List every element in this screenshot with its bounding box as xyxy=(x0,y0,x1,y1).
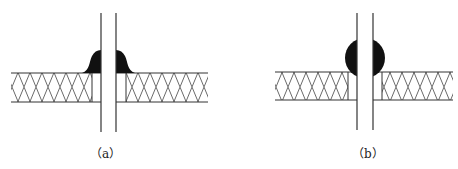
weld-fillet-a xyxy=(82,50,135,73)
plate-left-b xyxy=(275,72,357,100)
plate-left-a xyxy=(11,73,101,102)
rod-a xyxy=(101,13,116,132)
weld-diagram-svg xyxy=(0,0,458,169)
weld-bead-b xyxy=(345,38,385,78)
caption-b: （b） xyxy=(352,144,384,161)
diagram: （a） （b） xyxy=(0,0,458,169)
caption-a: （a） xyxy=(90,144,121,161)
figure-a xyxy=(11,13,208,132)
rod-b xyxy=(357,13,373,130)
figure-b xyxy=(275,13,453,130)
plate-right-a xyxy=(116,73,208,102)
plate-right-b xyxy=(373,72,453,100)
